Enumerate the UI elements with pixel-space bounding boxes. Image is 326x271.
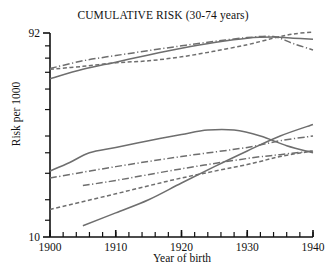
plot-area: 19001910192019301940 1092 — [0, 0, 326, 271]
y-axis-tick-labels: 1092 — [29, 27, 41, 243]
x-tick-label: 1910 — [104, 241, 127, 253]
series-line-lower-dashed — [50, 151, 313, 209]
series-line-lower-dashdot-upper — [50, 136, 313, 178]
x-tick-label: 1920 — [170, 241, 193, 253]
y-axis-ticks — [43, 33, 50, 237]
y-tick-label: 92 — [29, 27, 41, 39]
x-tick-label: 1900 — [39, 241, 62, 253]
chart-figure: CUMULATIVE RISK (30-74 years) Risk per 1… — [0, 0, 326, 271]
series-line-upper-solid — [50, 37, 313, 79]
series-line-lower-solid-steep — [83, 125, 313, 226]
series-line-lower-solid-curve — [50, 129, 313, 171]
x-axis-tick-labels: 19001910192019301940 — [39, 241, 325, 253]
x-axis-ticks — [50, 230, 313, 237]
x-tick-label: 1940 — [302, 241, 325, 253]
y-tick-label: 10 — [29, 231, 41, 243]
series-line-upper-dashdot — [50, 36, 313, 68]
x-tick-label: 1930 — [236, 241, 259, 253]
data-series-group — [50, 32, 313, 226]
